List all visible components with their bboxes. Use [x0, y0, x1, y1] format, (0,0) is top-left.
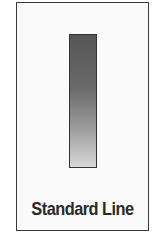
- line-style-label: Standard Line: [25, 198, 139, 220]
- gradient-line-swatch: [69, 34, 97, 168]
